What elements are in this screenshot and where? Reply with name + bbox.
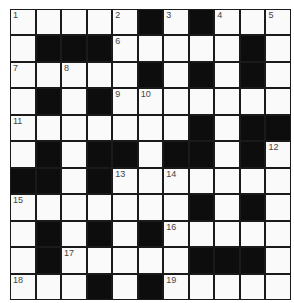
answer-cell[interactable] <box>190 222 214 246</box>
answer-cell[interactable]: 8 <box>62 63 86 87</box>
answer-cell[interactable] <box>113 63 137 87</box>
answer-cell[interactable]: 5 <box>266 10 290 34</box>
answer-cell[interactable] <box>139 195 163 219</box>
answer-cell[interactable] <box>37 10 61 34</box>
answer-cell[interactable] <box>62 116 86 140</box>
answer-cell[interactable] <box>241 222 265 246</box>
answer-cell[interactable] <box>113 195 137 219</box>
answer-cell[interactable]: 16 <box>164 222 188 246</box>
answer-cell[interactable] <box>215 222 239 246</box>
answer-cell[interactable] <box>88 248 112 272</box>
answer-cell[interactable] <box>215 275 239 299</box>
answer-cell[interactable] <box>164 195 188 219</box>
answer-cell[interactable] <box>88 195 112 219</box>
answer-cell[interactable] <box>139 169 163 193</box>
answer-cell[interactable] <box>215 36 239 60</box>
answer-cell[interactable]: 9 <box>113 89 137 113</box>
answer-cell[interactable]: 19 <box>164 275 188 299</box>
answer-cell[interactable] <box>113 275 137 299</box>
answer-cell[interactable] <box>266 248 290 272</box>
answer-cell[interactable] <box>113 222 137 246</box>
answer-cell[interactable] <box>88 63 112 87</box>
answer-cell[interactable] <box>62 222 86 246</box>
black-cell <box>190 142 214 166</box>
answer-cell[interactable] <box>11 36 35 60</box>
black-cell <box>190 10 214 34</box>
answer-cell[interactable] <box>190 275 214 299</box>
black-cell <box>190 63 214 87</box>
answer-cell[interactable]: 4 <box>215 10 239 34</box>
answer-cell[interactable] <box>88 10 112 34</box>
answer-cell[interactable] <box>139 116 163 140</box>
black-cell <box>139 63 163 87</box>
answer-cell[interactable] <box>266 222 290 246</box>
answer-cell[interactable] <box>266 275 290 299</box>
answer-cell[interactable] <box>139 248 163 272</box>
answer-cell[interactable] <box>11 248 35 272</box>
answer-cell[interactable] <box>164 116 188 140</box>
answer-cell[interactable] <box>164 248 188 272</box>
answer-cell[interactable] <box>241 169 265 193</box>
answer-cell[interactable]: 1 <box>11 10 35 34</box>
clue-number: 9 <box>115 90 120 99</box>
answer-cell[interactable] <box>113 248 137 272</box>
black-cell <box>11 169 35 193</box>
black-cell <box>139 10 163 34</box>
answer-cell[interactable] <box>11 222 35 246</box>
answer-cell[interactable] <box>215 89 239 113</box>
answer-cell[interactable] <box>11 142 35 166</box>
answer-cell[interactable]: 12 <box>266 142 290 166</box>
answer-cell[interactable]: 10 <box>139 89 163 113</box>
answer-cell[interactable] <box>266 195 290 219</box>
answer-cell[interactable] <box>190 89 214 113</box>
answer-cell[interactable]: 11 <box>11 116 35 140</box>
answer-cell[interactable] <box>37 116 61 140</box>
answer-cell[interactable] <box>241 10 265 34</box>
answer-cell[interactable] <box>215 142 239 166</box>
answer-cell[interactable] <box>62 169 86 193</box>
answer-cell[interactable] <box>37 195 61 219</box>
answer-cell[interactable] <box>62 10 86 34</box>
answer-cell[interactable] <box>266 89 290 113</box>
answer-cell[interactable] <box>62 195 86 219</box>
answer-cell[interactable] <box>88 116 112 140</box>
answer-cell[interactable] <box>11 89 35 113</box>
answer-cell[interactable] <box>190 169 214 193</box>
answer-cell[interactable] <box>266 169 290 193</box>
answer-cell[interactable] <box>215 116 239 140</box>
answer-cell[interactable] <box>164 36 188 60</box>
answer-cell[interactable] <box>241 275 265 299</box>
black-cell <box>37 142 61 166</box>
answer-cell[interactable] <box>37 63 61 87</box>
black-cell <box>164 142 188 166</box>
answer-cell[interactable] <box>139 36 163 60</box>
answer-cell[interactable] <box>164 63 188 87</box>
answer-cell[interactable]: 17 <box>62 248 86 272</box>
answer-cell[interactable]: 3 <box>164 10 188 34</box>
answer-cell[interactable] <box>62 142 86 166</box>
answer-cell[interactable] <box>139 142 163 166</box>
answer-cell[interactable]: 14 <box>164 169 188 193</box>
answer-cell[interactable] <box>62 275 86 299</box>
answer-cell[interactable] <box>241 89 265 113</box>
answer-cell[interactable] <box>215 63 239 87</box>
answer-cell[interactable] <box>215 195 239 219</box>
black-cell <box>190 116 214 140</box>
answer-cell[interactable]: 18 <box>11 275 35 299</box>
answer-cell[interactable] <box>266 36 290 60</box>
clue-number: 10 <box>141 90 151 99</box>
answer-cell[interactable]: 2 <box>113 10 137 34</box>
answer-cell[interactable] <box>215 169 239 193</box>
answer-cell[interactable] <box>164 89 188 113</box>
answer-cell[interactable] <box>37 275 61 299</box>
answer-cell[interactable] <box>113 116 137 140</box>
answer-cell[interactable] <box>266 63 290 87</box>
answer-cell[interactable]: 7 <box>11 63 35 87</box>
answer-cell[interactable]: 6 <box>113 36 137 60</box>
black-cell <box>37 222 61 246</box>
answer-cell[interactable]: 13 <box>113 169 137 193</box>
answer-cell[interactable]: 15 <box>11 195 35 219</box>
answer-cell[interactable] <box>190 36 214 60</box>
black-cell <box>88 275 112 299</box>
answer-cell[interactable] <box>62 89 86 113</box>
